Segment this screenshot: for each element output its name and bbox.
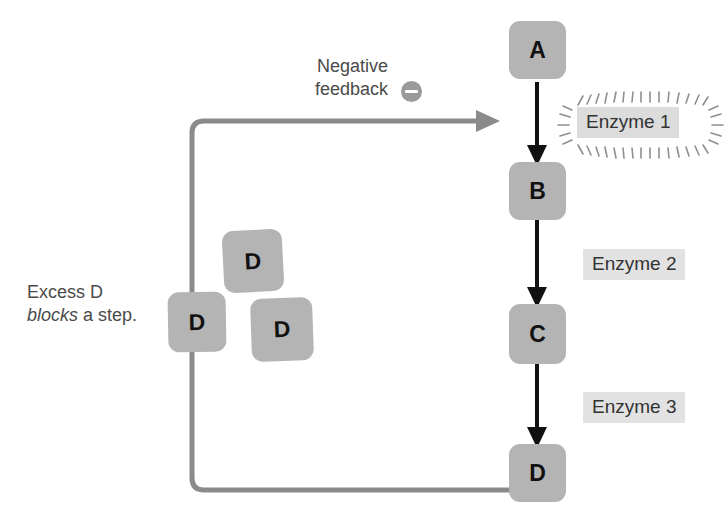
excess-d-box-2[interactable]: D xyxy=(221,228,284,293)
negative-feedback-line-2: feedback xyxy=(243,78,388,101)
excess-d-line-1: Excess D xyxy=(27,281,207,304)
metabolite-box-b[interactable]: B xyxy=(509,162,566,220)
metabolite-box-d[interactable]: D xyxy=(509,444,566,502)
excess-d-annotation: Excess D blocks a step. xyxy=(27,281,207,328)
minus-icon xyxy=(401,81,422,102)
excess-d-box-3[interactable]: D xyxy=(250,297,314,362)
enzyme-2-label[interactable]: Enzyme 2 xyxy=(583,249,685,280)
feedback-inhibition-diagram: A B C D xyxy=(0,0,728,531)
negative-feedback-annotation: Negative feedback xyxy=(243,55,388,102)
metabolite-box-c[interactable]: C xyxy=(509,304,566,364)
enzyme-3-label[interactable]: Enzyme 3 xyxy=(583,392,685,423)
negative-feedback-line-1: Negative xyxy=(243,55,388,78)
minus-sign-badge xyxy=(394,81,422,102)
excess-d-line-2-rest: a step. xyxy=(78,305,137,325)
excess-d-emphasis: blocks xyxy=(27,305,78,325)
metabolite-box-a[interactable]: A xyxy=(509,21,566,79)
excess-d-line-2: blocks a step. xyxy=(27,304,207,327)
enzyme-1-label[interactable]: Enzyme 1 xyxy=(577,107,679,138)
